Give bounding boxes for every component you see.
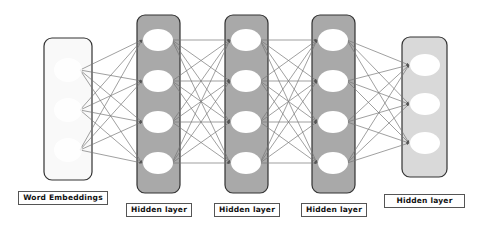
label-hidden-layer-1: Hidden layer	[126, 203, 192, 217]
node-hidden-layer-4-3	[410, 132, 440, 154]
node-hidden-layer-2-1	[231, 29, 261, 51]
node-hidden-layer-3-4	[318, 152, 348, 174]
node-hidden-layer-2-3	[231, 111, 261, 133]
node-hidden-layer-4-1	[410, 54, 440, 76]
connection-edge	[347, 65, 409, 81]
label-hidden-layer-4: Hidden layer	[384, 194, 465, 208]
node-hidden-layer-3-2	[318, 70, 348, 92]
connection-edge	[347, 65, 409, 163]
connection-edge	[347, 122, 409, 143]
connection-edge	[347, 40, 409, 65]
node-hidden-layer-4-2	[410, 93, 440, 115]
label-hidden-layer-3: Hidden layer	[301, 203, 367, 217]
node-word-embeddings-2	[54, 98, 82, 122]
node-hidden-layer-2-2	[231, 70, 261, 92]
node-hidden-layer-2-4	[231, 152, 261, 174]
label-hidden-layer-2: Hidden layer	[214, 203, 280, 217]
node-word-embeddings-1	[54, 58, 82, 82]
node-hidden-layer-1-2	[143, 70, 173, 92]
connection-edge	[347, 40, 409, 143]
connection-edge	[347, 40, 409, 104]
label-word-embeddings: Word Embeddings	[18, 191, 108, 205]
node-hidden-layer-3-1	[318, 29, 348, 51]
node-hidden-layer-3-3	[318, 111, 348, 133]
node-word-embeddings-3	[54, 138, 82, 162]
node-hidden-layer-1-3	[143, 111, 173, 133]
connection-edge	[347, 81, 409, 104]
connection-edge	[347, 143, 409, 163]
node-hidden-layer-1-1	[143, 29, 173, 51]
node-hidden-layer-1-4	[143, 152, 173, 174]
